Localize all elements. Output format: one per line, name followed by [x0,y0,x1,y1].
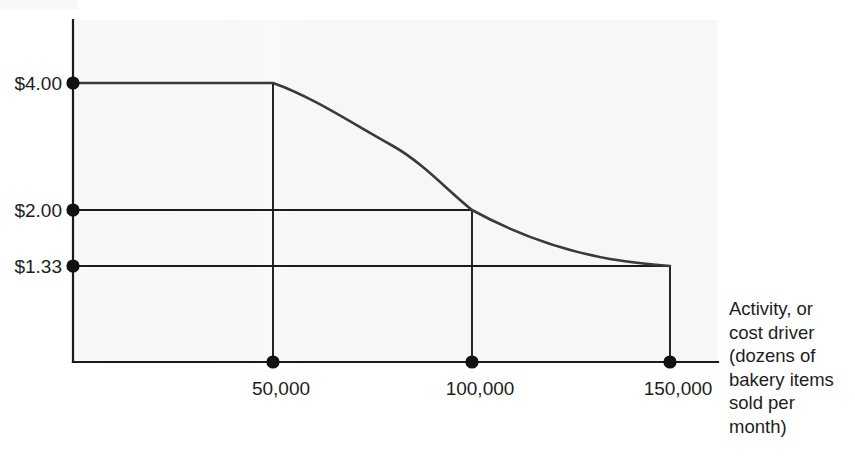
x-axis-caption-line-5: sold per [729,391,855,415]
x-tick-label-100000: 100,000 [446,378,515,399]
cost-per-unit-curve [73,83,670,266]
cost-per-unit-chart: $4.00 $2.00 $1.33 50,000 100,000 150,000 [0,0,855,460]
marker-dot-x-150000 [663,355,676,368]
marker-dot-x-50000 [266,355,279,368]
x-axis-caption-line-3: (dozens of [729,344,855,368]
marker-dot-x-100000 [465,355,478,368]
y-tick-label-133: $1.33 [14,256,62,277]
y-tick-label-200: $2.00 [14,200,62,221]
marker-dot-y-133 [66,259,79,272]
x-axis-caption: Activity, or cost driver (dozens of bake… [729,297,855,438]
x-axis-caption-line-6: month) [729,415,855,439]
x-axis-caption-line-2: cost driver [729,321,855,345]
x-axis-caption-line-4: bakery items [729,368,855,392]
marker-dot-y-400 [66,76,79,89]
x-axis-caption-line-1: Activity, or [729,297,855,321]
chart-figure: $4.00 $2.00 $1.33 50,000 100,000 150,000… [0,0,855,460]
y-tick-label-400: $4.00 [14,73,62,94]
x-tick-label-50000: 50,000 [252,378,310,399]
marker-dot-y-200 [66,203,79,216]
x-tick-label-150000: 150,000 [644,378,713,399]
